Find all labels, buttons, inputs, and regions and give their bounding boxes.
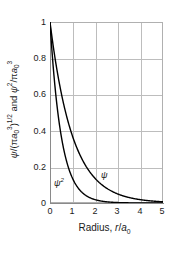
x-tick-label: 0 — [43, 206, 57, 216]
psi-squared-curve-label: ψ2 — [54, 178, 64, 188]
x-axis-title: Radius, r/a0 — [0, 222, 175, 233]
psi-curve-label: ψ — [101, 170, 108, 180]
psi-squared-exponent: 2 — [61, 176, 64, 183]
x-tick-label: 2 — [88, 206, 102, 216]
x-tick-label: 4 — [133, 206, 147, 216]
x-tick-label: 3 — [110, 206, 124, 216]
x-tick-label: 1 — [65, 206, 79, 216]
y-axis-title: ψ/(πa03)1/2 and ψ2/πa03 — [8, 15, 19, 205]
x-axis-spine — [50, 203, 164, 204]
figure-container: ψ ψ2 1 0.8 0.6 0.4 0.2 0 0 1 2 3 4 5 Rad… — [0, 0, 175, 256]
x-tick-label: 5 — [155, 206, 169, 216]
